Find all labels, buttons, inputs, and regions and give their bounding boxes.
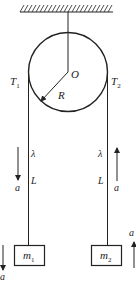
label-lambda-left: λ bbox=[30, 148, 36, 159]
label-lambda-right: λ bbox=[97, 148, 103, 159]
label-tension-left: T1 bbox=[10, 75, 20, 90]
label-accel-left-rope: a bbox=[15, 182, 20, 193]
pulley-diagram: O R T1 T2 λ λ L L a a a a m1 m2 bbox=[0, 0, 136, 281]
label-accel-mass-left: a bbox=[0, 271, 5, 281]
ceiling bbox=[20, 5, 113, 12]
label-length-right: L bbox=[97, 175, 104, 186]
label-accel-right-rope: a bbox=[114, 182, 119, 193]
label-center-o: O bbox=[71, 68, 79, 80]
label-length-left: L bbox=[30, 175, 37, 186]
ceiling-hatching bbox=[20, 5, 112, 12]
label-radius-r: R bbox=[57, 89, 65, 101]
label-tension-right: T2 bbox=[111, 75, 121, 90]
label-accel-mass-right: a bbox=[129, 227, 134, 238]
